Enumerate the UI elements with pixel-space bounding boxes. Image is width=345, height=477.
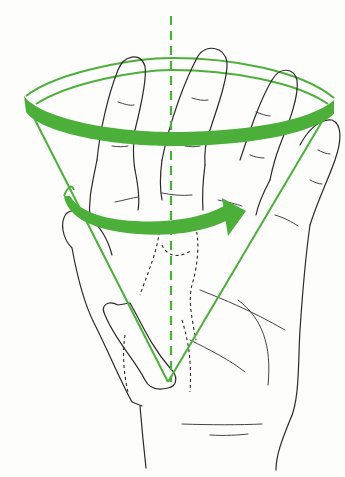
rotation-arrow <box>64 187 246 236</box>
hand-cone-diagram <box>0 0 345 477</box>
cone-outline <box>30 108 330 382</box>
illustration <box>0 0 345 477</box>
cone-rim-band <box>24 96 334 146</box>
hand-outline <box>63 48 340 470</box>
